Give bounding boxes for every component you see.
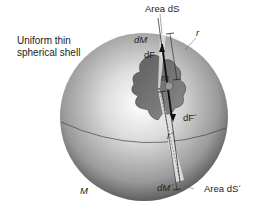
dF-label: dF xyxy=(144,50,155,60)
point-mass xyxy=(165,82,173,90)
area-dS-prime-label: Area dS´ xyxy=(204,184,242,194)
area-dS-label: Area dS xyxy=(145,4,179,14)
r-label: r xyxy=(196,28,199,38)
M-label: M xyxy=(80,186,88,196)
dM-label: dM xyxy=(134,35,147,45)
shell-caption: Uniform thin spherical shell xyxy=(17,35,80,59)
spherical-shell-diagram: Uniform thin spherical shell Area dS dM … xyxy=(0,0,258,211)
shell-illustration xyxy=(0,0,258,211)
caption-line-2: spherical shell xyxy=(17,47,80,59)
dS-leader xyxy=(160,14,162,34)
m-label: m xyxy=(161,73,169,83)
dF-prime-label: dF´ xyxy=(183,113,197,123)
dM-prime-label: dM´ xyxy=(157,183,173,193)
r-prime-label: r´ xyxy=(167,131,173,141)
caption-line-1: Uniform thin xyxy=(17,35,80,47)
dimension-tick xyxy=(166,33,174,34)
